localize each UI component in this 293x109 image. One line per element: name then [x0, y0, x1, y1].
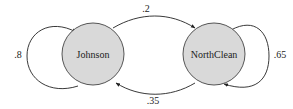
node-northclean: NorthClean	[183, 23, 245, 85]
transition-arrow	[116, 83, 195, 94]
node-label: Johnson	[77, 49, 110, 60]
edge-label-johnson-self: .8	[14, 49, 22, 60]
transition-arrow	[113, 16, 195, 28]
transition-diagram: Johnson NorthClean .8 .2 .35 .65	[0, 0, 293, 109]
edge-label-johnson-to-northclean: .2	[142, 3, 150, 14]
edge-northclean-to-johnson	[116, 83, 195, 94]
node-johnson: Johnson	[62, 23, 124, 85]
node-label: NorthClean	[191, 49, 238, 60]
edge-label-northclean-to-johnson: .35	[147, 95, 160, 106]
edge-johnson-to-northclean	[113, 16, 195, 28]
edge-label-northclean-self: .65	[274, 49, 287, 60]
